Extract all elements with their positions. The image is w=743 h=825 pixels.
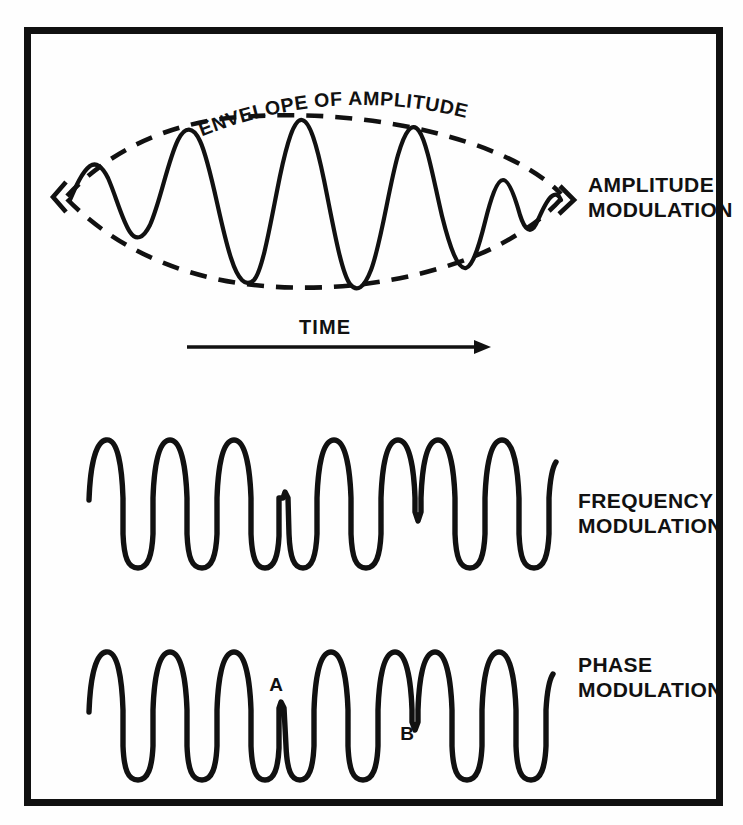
am-label-line1: AMPLITUDE <box>588 173 714 196</box>
point-b-label: B <box>400 723 414 744</box>
pm-label-line1: PHASE <box>578 653 652 676</box>
time-axis-label: TIME <box>299 316 351 338</box>
point-a-label: A <box>269 674 283 695</box>
am-label-line2: MODULATION <box>588 198 733 221</box>
fm-label-line2: MODULATION <box>578 514 723 537</box>
fm-waveform <box>89 440 556 568</box>
fm-label-line1: FREQUENCY <box>578 489 713 512</box>
diagram-canvas: ENVELOPE OF AMPLITUDE AMPLITUDE MODULATI… <box>0 0 743 825</box>
am-carrier-waveform <box>70 120 561 288</box>
panel-frequency-modulation: FREQUENCY MODULATION <box>89 440 723 568</box>
envelope-upper-curve <box>67 115 561 196</box>
envelope-left-tip <box>53 182 66 212</box>
time-axis: TIME <box>187 316 491 354</box>
pm-waveform <box>89 652 553 780</box>
pm-label-line2: MODULATION <box>578 678 723 701</box>
modulation-diagram-figure: ENVELOPE OF AMPLITUDE AMPLITUDE MODULATI… <box>0 0 743 825</box>
panel-phase-modulation: A B PHASE MODULATION <box>89 652 723 780</box>
panel-amplitude-modulation: ENVELOPE OF AMPLITUDE AMPLITUDE MODULATI… <box>53 87 733 288</box>
time-axis-arrow-icon <box>474 340 491 354</box>
